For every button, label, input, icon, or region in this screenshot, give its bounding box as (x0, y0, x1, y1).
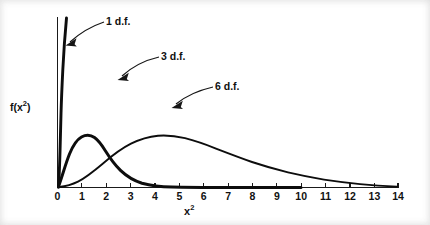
leader-3-df (118, 57, 160, 81)
x-tick-label-11: 11 (315, 190, 337, 202)
x-tick-label-1: 1 (71, 190, 93, 202)
x-tick-label-2: 2 (95, 190, 117, 202)
x-tick-label-9: 9 (266, 190, 288, 202)
leader-arrowhead-3-df (118, 73, 130, 81)
x-tick-label-4: 4 (144, 190, 166, 202)
series-label-6-df: 6 d.f. (215, 80, 240, 92)
leader-6-df (172, 87, 214, 109)
leader-1-df (66, 22, 105, 46)
x-tick-label-6: 6 (193, 190, 215, 202)
x-tick-label-10: 10 (290, 190, 312, 202)
series-label-3-df: 3 d.f. (161, 50, 186, 62)
x-tick-label-7: 7 (217, 190, 239, 202)
chi-square-density-figure: f(x2) x2 0 1 2 3 4 5 6 7 8 9 10 11 12 13… (0, 0, 430, 225)
leader-arrowhead-1-df (66, 38, 77, 46)
x-axis-label: x2 (184, 203, 194, 217)
y-axis-label-text: f(x (10, 101, 23, 113)
x-tick-label-13: 13 (363, 190, 385, 202)
curve-6-df (59, 135, 397, 187)
x-tick-label-12: 12 (339, 190, 361, 202)
x-tick-label-8: 8 (242, 190, 264, 202)
x-tick-label-0: 0 (47, 190, 69, 202)
x-tick-label-5: 5 (168, 190, 190, 202)
leader-line-3-df (122, 57, 159, 76)
y-axis-label-tail: ) (27, 101, 31, 113)
leader-arrowhead-6-df (172, 101, 184, 109)
curve-3-df (59, 135, 302, 187)
x-tick-label-14: 14 (387, 190, 409, 202)
leader-line-1-df (70, 22, 104, 42)
x-axis-label-superscript: 2 (190, 203, 194, 212)
series-label-1-df: 1 d.f. (106, 15, 131, 27)
leader-line-6-df (176, 87, 213, 104)
y-axis-label: f(x2) (10, 99, 31, 113)
x-tick-label-3: 3 (120, 190, 142, 202)
